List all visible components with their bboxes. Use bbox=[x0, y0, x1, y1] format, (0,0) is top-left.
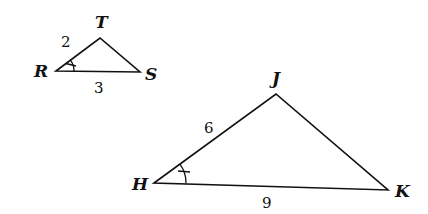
triangle-rst: R T S 2 3 bbox=[33, 12, 157, 97]
triangle-hjk-outline bbox=[154, 94, 388, 190]
vertex-label-h: H bbox=[131, 174, 149, 194]
vertex-label-r: R bbox=[33, 61, 48, 81]
angle-mark-r-tick bbox=[66, 64, 76, 67]
side-label-hk: 9 bbox=[262, 194, 272, 212]
vertex-label-k: K bbox=[394, 181, 411, 201]
side-label-hj: 6 bbox=[204, 119, 214, 137]
triangle-hjk: H J K 6 9 bbox=[131, 68, 411, 212]
vertex-label-t: T bbox=[95, 12, 109, 32]
side-label-rs: 3 bbox=[94, 79, 104, 97]
diagram-canvas: R T S 2 3 H J K 6 9 bbox=[0, 0, 428, 214]
side-label-rt: 2 bbox=[61, 33, 71, 51]
angle-mark-h-arc bbox=[180, 164, 186, 183]
angle-mark-h-tick bbox=[178, 171, 190, 172]
vertex-label-j: J bbox=[269, 68, 281, 88]
vertex-label-s: S bbox=[145, 64, 157, 84]
